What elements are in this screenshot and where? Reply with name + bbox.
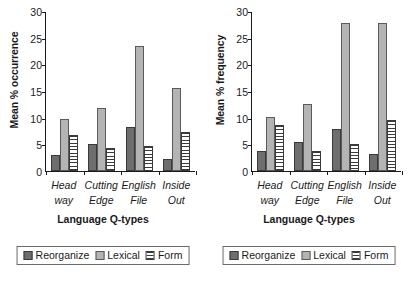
bar-group xyxy=(369,12,396,171)
bars-container-1 xyxy=(252,12,401,171)
x-category-line: Out xyxy=(158,193,195,208)
legend-swatch-form-icon xyxy=(352,251,361,260)
bar xyxy=(332,129,341,171)
x-tick-mark xyxy=(290,171,291,175)
bar xyxy=(266,117,275,171)
chart-panel-occurrence: Mean % occurrence 051015202530 HeadwayCu… xyxy=(0,0,206,286)
y-tick-label: 25 xyxy=(236,33,248,44)
bar xyxy=(135,46,144,171)
legend-label: Reorganize xyxy=(36,250,90,261)
legend-swatch-form-icon xyxy=(146,251,155,260)
bar xyxy=(126,127,135,171)
x-category-line: File xyxy=(120,193,157,208)
bar xyxy=(387,120,396,171)
legend-swatch-lexical-icon xyxy=(95,251,104,260)
x-category-line: Cutting xyxy=(83,178,120,193)
legend-swatch-lexical-icon xyxy=(301,251,310,260)
bar xyxy=(257,151,266,171)
x-category-labels-0: HeadwayCuttingEdgeEnglishFileInsideOut xyxy=(45,178,195,212)
x-tick-mark xyxy=(402,171,403,175)
y-tick-mark xyxy=(42,92,46,93)
y-tick-mark xyxy=(248,119,252,120)
x-tick-mark xyxy=(327,171,328,175)
plot-area-occurrence: Mean % occurrence 051015202530 xyxy=(0,12,206,194)
bar xyxy=(303,104,312,171)
bar xyxy=(181,132,190,171)
bar-group xyxy=(51,12,78,171)
bar xyxy=(106,148,115,171)
x-tick-mark xyxy=(46,171,47,175)
legend-0: ReorganizeLexicalForm xyxy=(17,246,190,265)
y-tick-label: 30 xyxy=(236,7,248,18)
bar xyxy=(275,125,284,171)
bar xyxy=(69,135,78,171)
legend-item: Form xyxy=(146,250,183,261)
bar xyxy=(341,23,350,171)
y-tick-mark xyxy=(248,92,252,93)
legend-item: Form xyxy=(352,250,389,261)
x-category-line: English xyxy=(120,178,157,193)
legend-item: Reorganize xyxy=(230,250,296,261)
x-category-line: Cutting xyxy=(289,178,326,193)
y-tick-mark xyxy=(248,65,252,66)
y-tick-label: 10 xyxy=(30,113,42,124)
legend-item: Lexical xyxy=(301,250,346,261)
bar xyxy=(144,146,153,171)
x-category-label: CuttingEdge xyxy=(83,178,120,212)
chart-panel-frequency: Mean % frequency 051015202530 HeadwayCut… xyxy=(206,0,412,286)
y-tick-labels-1: 051015202530 xyxy=(222,12,248,172)
y-tick-label: 20 xyxy=(30,60,42,71)
x-axis-label: Language Q-types xyxy=(206,213,412,225)
y-tick-labels-0: 051015202530 xyxy=(16,12,42,172)
bar xyxy=(60,119,69,171)
axes-1 xyxy=(251,12,401,172)
bar xyxy=(369,154,378,171)
x-category-label: InsideOut xyxy=(158,178,195,212)
bar xyxy=(294,142,303,171)
x-tick-mark xyxy=(84,171,85,175)
y-tick-mark xyxy=(248,12,252,13)
bar-group xyxy=(163,12,190,171)
y-tick-mark xyxy=(42,65,46,66)
legend-label: Form xyxy=(158,250,183,261)
bar xyxy=(51,155,60,171)
y-tick-label: 15 xyxy=(30,87,42,98)
legend-item: Lexical xyxy=(95,250,140,261)
legend-item: Reorganize xyxy=(24,250,90,261)
legend-swatch-reorganize-icon xyxy=(230,251,239,260)
x-category-line: Edge xyxy=(289,193,326,208)
x-category-labels-1: HeadwayCuttingEdgeEnglishFileInsideOut xyxy=(251,178,401,212)
x-tick-mark xyxy=(196,171,197,175)
x-category-line: File xyxy=(326,193,363,208)
x-category-label: InsideOut xyxy=(364,178,401,212)
y-tick-label: 25 xyxy=(30,33,42,44)
x-category-line: English xyxy=(326,178,363,193)
axes-0 xyxy=(45,12,195,172)
y-tick-mark xyxy=(248,39,252,40)
legend-label: Lexical xyxy=(107,250,140,261)
x-tick-mark xyxy=(121,171,122,175)
bar-group xyxy=(126,12,153,171)
bar xyxy=(350,144,359,171)
bar xyxy=(172,88,181,171)
y-tick-label: 20 xyxy=(236,60,248,71)
x-category-line: Inside xyxy=(158,178,195,193)
plot-area-frequency: Mean % frequency 051015202530 xyxy=(206,12,412,194)
y-tick-mark xyxy=(42,145,46,146)
x-category-line: Inside xyxy=(364,178,401,193)
bar-group xyxy=(88,12,115,171)
x-tick-mark xyxy=(252,171,253,175)
bar xyxy=(312,151,321,171)
bars-container-0 xyxy=(46,12,195,171)
x-category-line: Head xyxy=(251,178,288,193)
x-category-label: EnglishFile xyxy=(326,178,363,212)
bar-group xyxy=(294,12,321,171)
x-axis-label: Language Q-types xyxy=(0,213,206,225)
y-tick-mark xyxy=(248,145,252,146)
x-category-label: EnglishFile xyxy=(120,178,157,212)
bar-group xyxy=(332,12,359,171)
y-tick-mark xyxy=(42,12,46,13)
legend-label: Lexical xyxy=(313,250,346,261)
x-category-line: Head xyxy=(45,178,82,193)
x-category-label: Headway xyxy=(45,178,82,212)
